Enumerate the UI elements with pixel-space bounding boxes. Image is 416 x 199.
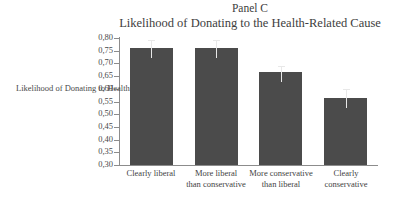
error-bar (216, 40, 217, 58)
y-axis-tick-label: 0,80 (71, 33, 113, 42)
y-axis-tick-label: 0,45 (71, 122, 113, 131)
bar (130, 48, 173, 165)
panel-title: Panel C (100, 1, 400, 15)
error-bar (151, 40, 152, 58)
y-axis-tick-label: 0,65 (71, 71, 113, 80)
plot-area (119, 38, 378, 165)
chart-figure: Panel C Likelihood of Donating to the He… (0, 0, 416, 199)
y-axis-tick-label: 0,30 (71, 160, 113, 169)
error-bar-cap (278, 66, 285, 67)
error-bar-cap (148, 40, 155, 41)
error-bar (346, 89, 347, 108)
error-bar (281, 66, 282, 83)
y-axis-tick-label: 0,55 (71, 97, 113, 106)
y-axis-tick-label: 0,40 (71, 135, 113, 144)
x-axis-line (119, 165, 378, 166)
error-bar-cap (343, 89, 350, 90)
bar (259, 72, 302, 165)
chart-title-block: Panel C Likelihood of Donating to the He… (100, 1, 400, 31)
y-axis-title: Likelihood of Donating to Health (16, 83, 130, 93)
y-axis-tick-label: 0,75 (71, 46, 113, 55)
y-axis-tick (114, 165, 119, 166)
error-bar-cap (213, 40, 220, 41)
y-axis-tick-label: 0,50 (71, 109, 113, 118)
chart-subtitle: Likelihood of Donating to the Health-Rel… (100, 15, 400, 31)
y-axis-tick-label: 0,35 (71, 147, 113, 156)
bar (324, 98, 367, 165)
x-axis-category-line: Clearly (303, 168, 389, 179)
y-axis-tick-label: 0,70 (71, 58, 113, 67)
x-axis-category-label: Clearlyconservative (303, 168, 389, 189)
x-axis-category-line: conservative (303, 179, 389, 190)
bar (195, 48, 238, 165)
